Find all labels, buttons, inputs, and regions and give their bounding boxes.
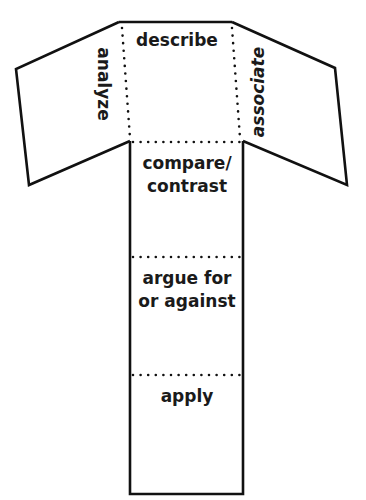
label-argue-for: argue for [142, 268, 232, 288]
label-contrast: contrast [147, 176, 227, 196]
foldable-diagram: describe analyze associate compare/ cont… [0, 0, 366, 500]
fold-line-left [122, 28, 130, 138]
label-analyze: analyze [94, 47, 114, 120]
fold-line-right [232, 28, 240, 138]
label-compare: compare/ [142, 153, 232, 173]
label-apply: apply [161, 386, 214, 406]
label-associate: associate [248, 47, 268, 137]
label-describe: describe [136, 30, 218, 50]
label-or-against: or against [138, 291, 235, 311]
